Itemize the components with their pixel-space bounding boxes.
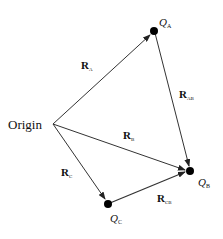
vector-RCB (110, 172, 185, 203)
vector-diagram: Origin QA QB QC RA RB RC RAB RCB (0, 0, 223, 239)
charge-QC-label: QC (110, 212, 122, 225)
charge-QC-dot (104, 200, 112, 208)
vector-RC-label: RC (61, 166, 73, 179)
charge-QA-label: QA (159, 16, 172, 29)
charge-QB-dot (186, 167, 194, 175)
charge-QA-dot (150, 27, 158, 35)
vector-RB-label: RB (123, 129, 135, 142)
vector-RAB-label: RAB (179, 88, 195, 101)
vector-RA-label: RA (81, 59, 93, 72)
vector-RA (53, 35, 150, 124)
vector-RCB-label: RCB (157, 192, 172, 205)
vector-RB (53, 124, 185, 170)
charge-QB-label: QB (198, 176, 210, 189)
origin-label: Origin (8, 117, 42, 132)
vector-RC (53, 124, 105, 199)
